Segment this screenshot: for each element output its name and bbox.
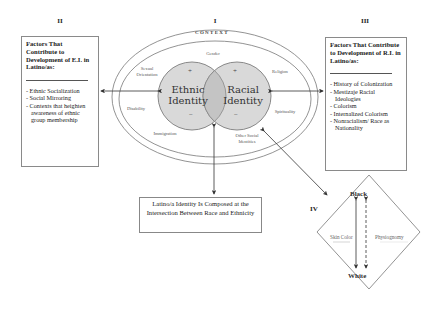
disability-label: Disability [121,106,151,112]
spirituality-label: Spirituality [268,109,302,115]
list-item: - Nonracialism/ Race as Nationality [330,117,402,132]
right-box-list: - History of Colonization - Mestizaje Ra… [330,80,402,131]
gender-label: Gender [198,51,228,57]
right-box-divider [330,73,392,74]
black-label: Black [350,190,367,198]
list-item: - Colorism [330,102,402,109]
ethnic-identity-factors-box: Factors That Contribute to Development o… [21,36,99,167]
context-title: CONTEXT [195,30,229,35]
sexual-orientation-label: Sexual Orientation [130,66,164,77]
list-item: - Internalized Colorism [330,110,402,117]
list-item: - Mestizaje Racial Ideologies [330,88,402,103]
phenotype-diamond [317,175,420,289]
section-i-label: I [205,17,225,25]
racial-plus-sign: + [233,67,237,75]
list-item: - Ethnic Socialization [26,87,94,94]
list-item: - Contexts that heighten awareness of et… [26,102,94,124]
left-box-divider [26,80,88,81]
left-box-title: Factors That Contribute to Development o… [26,40,94,71]
latino-identity-box: Latino/a Identity Is Composed at the Int… [139,197,262,233]
left-box-list: - Ethnic Socialization - Social Mirrorin… [26,87,94,123]
section-iii-label: III [355,17,375,25]
physiognomy-label: Physiognomy [375,234,404,240]
white-label: White [348,272,366,280]
ethnic-minus-sign: − [189,111,193,119]
list-item: - History of Colonization [330,80,402,87]
ethnic-identity-label: Ethnic Identity [163,84,213,106]
racial-identity-factors-box: Factors That Contribute to Development o… [325,37,407,171]
skin-color-label: Skin Color [330,234,353,240]
ethnic-plus-sign: + [188,67,192,75]
right-box-title: Factors That Contribute to Development o… [330,41,402,64]
racial-line1: Racial [217,84,269,95]
racial-minus-sign: − [234,111,238,119]
section-ii-label: II [50,17,70,25]
arrow-racial-to-diamond [264,131,327,195]
other-social-identities-label: Other Social Identities [230,133,264,144]
ethnic-line1: Ethnic [163,84,213,95]
racial-identity-label: Racial Identity [217,84,269,106]
list-item: - Social Mirroring [26,94,94,101]
section-iv-label: IV [304,205,324,213]
ethnic-line2: Identity [163,95,213,106]
immigration-label: Immigration [147,131,183,137]
religion-label: Religion [265,69,295,75]
racial-line2: Identity [217,95,269,106]
